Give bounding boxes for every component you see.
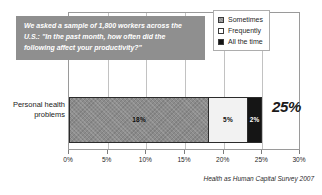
bar-label-frequently: 5% [223,117,233,124]
legend-label-all-the-time: All the time [228,38,263,45]
legend-item-sometimes[interactable]: Sometimes [218,14,263,25]
legend-label-sometimes: Sometimes [228,16,263,23]
tick-label-30: 30% [292,156,305,163]
annotation-callout: We asked a sample of 1,800 workers acros… [16,16,205,60]
tick-mark-10 [145,150,146,154]
legend: Sometimes Frequently All the time [213,10,270,51]
bar-segment-all-the-time[interactable]: 2% [247,97,262,143]
stacked-bar: 18% 5% 2% [69,97,262,143]
tick-mark-5 [107,150,108,154]
tick-mark-30 [299,150,300,154]
black-swatch-icon [218,39,224,45]
total-value-label: 25% [272,98,301,115]
tick-label-25: 25% [255,156,268,163]
bar-segment-sometimes[interactable]: 18% [69,97,208,143]
chart-screenshot: 18% 5% 2% 25% Personal health problems 0… [0,0,322,195]
tick-mark-0 [68,150,69,154]
legend-item-frequently[interactable]: Frequently [218,25,263,36]
tick-label-0: 0% [63,156,73,163]
legend-label-frequently: Frequently [228,27,261,34]
tick-mark-20 [223,150,224,154]
tick-label-15: 15% [177,156,190,163]
bar-label-sometimes: 18% [132,117,146,124]
x-axis: 0% 5% 10% 15% 20% 25% 30% [68,150,300,170]
legend-item-all-the-time[interactable]: All the time [218,36,263,47]
tick-mark-15 [184,150,185,154]
source-note: Health as Human Capital Survey 2007 [203,175,314,182]
bar-segment-frequently[interactable]: 5% [208,97,247,143]
tick-label-20: 20% [216,156,229,163]
category-label-personal-health-problems: Personal health problems [2,100,65,120]
gray-hatched-swatch-icon [218,17,224,23]
tick-label-5: 5% [102,156,112,163]
tick-label-10: 10% [139,156,152,163]
white-swatch-icon [218,28,224,34]
tick-mark-25 [261,150,262,154]
bar-label-all-the-time: 2% [250,117,260,124]
